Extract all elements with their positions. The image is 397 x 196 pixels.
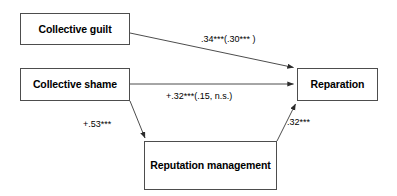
node-reparation-label: Reparation	[311, 79, 365, 90]
edge-label-shame-to-reparation: +.32***(.15, n.s.)	[166, 92, 232, 101]
edge-label-guilt-to-reparation: .34***(.30*** )	[201, 35, 256, 44]
node-reparation: Reparation	[297, 68, 378, 101]
node-reputation-management-label: Reputation management	[150, 160, 270, 171]
node-reputation-management: Reputation management	[144, 141, 277, 190]
edge-label-shame-to-reputation-management: +.53***	[83, 120, 111, 129]
arrow-shame-to-reputation-management	[130, 101, 145, 138]
path-diagram: Collective guilt Collective shame Repara…	[0, 0, 397, 196]
node-collective-shame: Collective shame	[20, 68, 130, 101]
edge-label-reputation-management-to-reparation: .32***	[287, 118, 310, 127]
node-collective-guilt-label: Collective guilt	[38, 24, 111, 35]
node-collective-guilt: Collective guilt	[20, 13, 130, 45]
node-collective-shame-label: Collective shame	[33, 79, 117, 90]
